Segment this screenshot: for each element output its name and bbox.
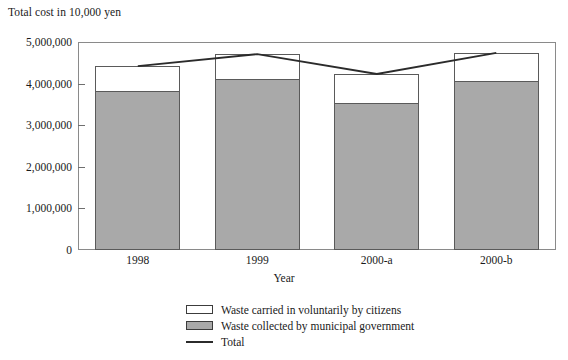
chart-container: Total cost in 10,000 yen 01,000,0002,000…: [0, 0, 568, 360]
legend-item[interactable]: Waste carried in voluntarily by citizens: [186, 302, 516, 317]
legend-item-label: Total: [221, 336, 244, 348]
x-axis-title: Year: [0, 272, 568, 284]
total-line-layer: [78, 42, 556, 250]
y-axis-tick-label: 2,000,000: [0, 161, 72, 173]
x-axis-tick-label: 2000-b: [480, 254, 513, 266]
legend-item[interactable]: Total: [186, 334, 516, 349]
legend-line-icon: [186, 337, 213, 346]
chart-legend: Waste carried in voluntarily by citizens…: [186, 302, 516, 350]
legend-item-label: Waste collected by municipal government: [221, 320, 414, 332]
y-axis-tick-label: 4,000,000: [0, 78, 72, 90]
x-axis-labels: 199819992000-a2000-b: [78, 254, 556, 272]
y-axis-tick-label: 3,000,000: [0, 119, 72, 131]
legend-filled-swatch-icon: [186, 321, 213, 330]
x-axis-tick-label: 1999: [246, 254, 269, 266]
y-axis-tick-label: 1,000,000: [0, 202, 72, 214]
x-axis-tick-label: 1998: [126, 254, 149, 266]
legend-item-label: Waste carried in voluntarily by citizens: [221, 304, 401, 316]
y-axis-tick-label: 5,000,000: [0, 36, 72, 48]
total-line[interactable]: [138, 53, 497, 74]
legend-item[interactable]: Waste collected by municipal government: [186, 318, 516, 333]
x-axis-tick-label: 2000-a: [361, 254, 393, 266]
y-axis-title: Total cost in 10,000 yen: [8, 6, 121, 18]
y-axis-labels: 01,000,0002,000,0003,000,0004,000,0005,0…: [0, 42, 72, 250]
legend-hollow-swatch-icon: [186, 305, 213, 314]
y-axis-tick-label: 0: [0, 244, 72, 256]
